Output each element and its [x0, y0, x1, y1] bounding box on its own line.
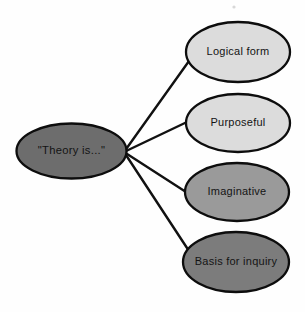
connector-lines [124, 61, 189, 251]
scan-speck-artifact [232, 5, 235, 8]
node-branch-basis-for-inquiry[interactable]: Basis for inquiry [183, 232, 289, 292]
connector-line-basis-for-inquiry [124, 152, 189, 251]
concept-map-canvas: "Theory is..." Logical form Purposeful I… [0, 0, 305, 312]
branch-label-logical-form: Logical form [207, 45, 270, 57]
connector-line-logical-form [124, 61, 189, 152]
branch-label-imaginative: Imaginative [207, 185, 266, 197]
node-branch-imaginative[interactable]: Imaginative [185, 163, 289, 221]
node-hub-theory-is[interactable]: "Theory is..." [17, 124, 127, 179]
connector-line-imaginative [124, 152, 186, 192]
hub-label-text: "Theory is..." [38, 144, 105, 156]
concept-map-diagram: "Theory is..." Logical form Purposeful I… [0, 0, 305, 312]
node-branch-purposeful[interactable]: Purposeful [186, 94, 290, 152]
branch-label-purposeful: Purposeful [210, 116, 265, 128]
node-branch-logical-form[interactable]: Logical form [186, 22, 290, 82]
branch-label-basis-for-inquiry: Basis for inquiry [195, 255, 278, 267]
